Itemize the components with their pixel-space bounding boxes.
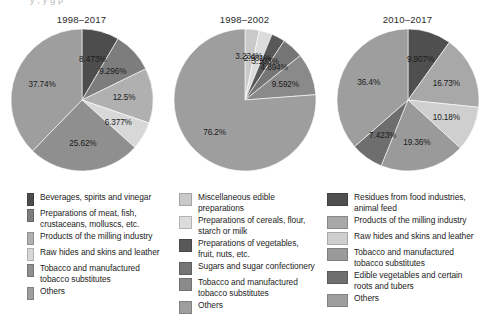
legend-label: Others xyxy=(198,300,223,311)
legend-item[interactable]: Preparations of cereals, flour,starch or… xyxy=(179,215,317,236)
legend-label: Preparations of cereals, flour,starch or… xyxy=(198,215,305,236)
legend-swatch-icon xyxy=(327,294,348,307)
pie-chart-title-1: 1998–2017 xyxy=(0,14,163,25)
legend-label: Preparations of meat, fish,crustaceans, … xyxy=(40,208,139,229)
legend-swatch-icon xyxy=(27,248,34,261)
legend-swatch-icon xyxy=(27,264,34,277)
legend-item[interactable]: Residues from food industries,animal fee… xyxy=(327,192,489,213)
legend-item[interactable]: Tobacco and manufacturedtobacco substitu… xyxy=(327,247,489,268)
legend-label-line2: tobacco substitutes xyxy=(40,274,140,285)
legend-column-2: Miscellaneous edible preparationsPrepara… xyxy=(177,186,317,334)
legend-item[interactable]: Others xyxy=(179,300,317,314)
pie-chart-panel-3: 2010–2017 9.907%16.73%10.18%19.36%7.423%… xyxy=(326,9,489,185)
legend-item[interactable]: Raw hides and skins and leather xyxy=(27,247,177,261)
legend-swatch-icon xyxy=(327,216,348,229)
pie-slice-label: 6.377% xyxy=(105,117,132,126)
pie-wrap-1: 8.473%9.296%12.5%6.377%25.62%37.74% xyxy=(0,25,163,175)
pie-chart-row: 1998–2017 8.473%9.296%12.5%6.377%25.62%3… xyxy=(0,9,489,185)
legend-item[interactable]: Edible vegetables and certainroots and t… xyxy=(327,270,489,291)
pie-slice-label: 12.5% xyxy=(113,93,136,102)
legend-swatch-icon xyxy=(27,209,34,222)
pie-svg-3 xyxy=(334,27,482,173)
legend-swatch-icon xyxy=(179,239,192,252)
legend-label-line2: roots and tubers xyxy=(354,281,462,292)
legend-item[interactable]: Sugars and sugar confectionery xyxy=(179,261,317,275)
pie-slice-label: 76.2% xyxy=(203,128,226,137)
pie-chart-panel-2: 1998–2002 3.234%2.981%3.103%4.894%9.592%… xyxy=(163,9,326,185)
legend-label: Miscellaneous edible preparations xyxy=(198,192,317,213)
legend-swatch-icon xyxy=(179,301,192,314)
legend-label: Preparations of vegetables,fruit, nuts, … xyxy=(198,238,299,259)
pie-svg-2 xyxy=(171,27,319,173)
legend-item[interactable]: Tobacco and manufacturedtobacco substitu… xyxy=(179,277,317,298)
pie-chart-title-3: 2010–2017 xyxy=(326,14,489,25)
legend-item[interactable]: Others xyxy=(27,286,177,300)
legend-label: Others xyxy=(40,286,65,297)
pie-slice-label: 7.423% xyxy=(369,130,396,139)
legend-column-3: Residues from food industries,animal fee… xyxy=(317,186,489,334)
pie-slice-label: 36.4% xyxy=(357,78,380,87)
legend-swatch-icon xyxy=(327,193,348,206)
pie-wrap-3: 9.907%16.73%10.18%19.36%7.423%36.4% xyxy=(326,25,489,175)
legend-label: Tobacco and manufacturedtobacco substitu… xyxy=(40,263,140,284)
pie-slice-label: 4.894% xyxy=(261,63,288,72)
legend-item[interactable]: Products of the milling industry xyxy=(327,215,489,229)
pie-slice-label: 9.592% xyxy=(272,79,299,88)
legend-label-line2: fruit, nuts, etc. xyxy=(198,249,299,260)
legend-label: Sugars and sugar confectionery xyxy=(198,261,315,272)
pie-slice-label: 37.74% xyxy=(28,79,55,88)
legend-label: Tobacco and manufacturedtobacco substitu… xyxy=(354,247,454,268)
legend-item[interactable]: Products of the milling industry xyxy=(27,231,177,245)
legend-label-line2: crustaceans, molluscs, etc. xyxy=(40,219,139,230)
pie-chart-panel-1: 1998–2017 8.473%9.296%12.5%6.377%25.62%3… xyxy=(0,9,163,185)
pie-slice-label: 9.296% xyxy=(99,67,126,76)
legend-swatch-icon xyxy=(179,216,192,229)
legend-swatch-icon xyxy=(179,278,192,291)
legend-label-line2: tobacco substitutes xyxy=(354,258,454,269)
legend-item[interactable]: Miscellaneous edible preparations xyxy=(179,192,317,213)
legend: Beverages, spirits and vinegarPreparatio… xyxy=(0,186,489,334)
legend-swatch-icon xyxy=(327,248,348,261)
pie-slice-label: 8.473% xyxy=(79,54,106,63)
pie-slice-label: 25.62% xyxy=(69,138,96,147)
legend-label-line2: tobacco substitutes xyxy=(198,288,298,299)
legend-item[interactable]: Raw hides and skins and leather xyxy=(327,231,489,245)
legend-item[interactable]: Beverages, spirits and vinegar xyxy=(27,192,177,206)
pie-chart-title-2: 1998–2002 xyxy=(163,14,326,25)
legend-label: Others xyxy=(354,293,379,304)
legend-column-1: Beverages, spirits and vinegarPreparatio… xyxy=(0,186,177,334)
legend-item[interactable]: Tobacco and manufacturedtobacco substitu… xyxy=(27,263,177,284)
pie-slice-label: 10.18% xyxy=(433,113,460,122)
legend-swatch-icon xyxy=(27,287,34,300)
legend-label: Edible vegetables and certainroots and t… xyxy=(354,270,462,291)
legend-label: Residues from food industries,animal fee… xyxy=(354,192,466,213)
legend-item[interactable]: Preparations of meat, fish,crustaceans, … xyxy=(27,208,177,229)
legend-swatch-icon xyxy=(327,271,348,284)
legend-swatch-icon xyxy=(27,193,34,206)
legend-label: Products of the milling industry xyxy=(354,215,466,226)
pie-wrap-2: 3.234%2.981%3.103%4.894%9.592%76.2% xyxy=(163,25,326,175)
cropped-caption-line: y , y g p xyxy=(0,0,489,9)
legend-label: Raw hides and skins and leather xyxy=(354,231,474,242)
legend-label-line2: animal feed xyxy=(354,203,466,214)
legend-item[interactable]: Preparations of vegetables,fruit, nuts, … xyxy=(179,238,317,259)
legend-item[interactable]: Others xyxy=(327,293,489,307)
cropped-caption-text: y , y g p xyxy=(30,0,63,5)
legend-swatch-icon xyxy=(179,262,192,275)
pie-slice-label: 16.73% xyxy=(433,78,460,87)
legend-swatch-icon xyxy=(179,193,192,206)
legend-label: Products of the milling industry xyxy=(40,231,152,242)
legend-label: Tobacco and manufacturedtobacco substitu… xyxy=(198,277,298,298)
pie-slice-label: 19.36% xyxy=(403,137,430,146)
legend-swatch-icon xyxy=(327,232,348,245)
legend-label-line2: starch or milk xyxy=(198,226,305,237)
legend-label: Beverages, spirits and vinegar xyxy=(40,192,151,203)
legend-swatch-icon xyxy=(27,232,34,245)
pie-slice-label: 9.907% xyxy=(407,55,434,64)
legend-label: Raw hides and skins and leather xyxy=(40,247,160,258)
